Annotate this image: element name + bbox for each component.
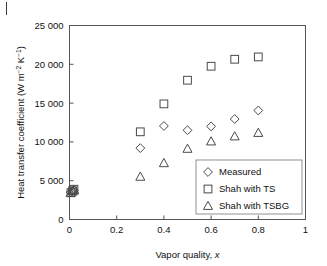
y-tick-label: 0 — [58, 214, 63, 225]
data-point-diamond — [136, 144, 145, 153]
data-point-diamond — [230, 115, 239, 124]
data-point-triangle — [136, 172, 145, 180]
data-point-triangle — [254, 128, 263, 136]
figure-container: 00.20.40.60.8105 00010 00015 00020 00025… — [0, 0, 327, 266]
axis-labels-layer: 00.20.40.60.8105 00010 00015 00020 00025… — [15, 20, 308, 260]
x-tick-label: 0.6 — [204, 224, 217, 235]
data-point-triangle — [207, 137, 216, 145]
x-tick-label: 0 — [67, 224, 72, 235]
legend-label: Shah with TS — [219, 183, 275, 194]
data-point-triangle — [183, 144, 192, 152]
data-point-diamond — [183, 126, 192, 135]
x-axis-title: Vapor quality, x — [155, 249, 220, 260]
data-point-square — [136, 128, 144, 136]
data-point-triangle — [230, 132, 239, 140]
scatter-chart: 00.20.40.60.8105 00010 00015 00020 00025… — [0, 0, 327, 266]
data-point-square — [184, 76, 192, 84]
x-tick-label: 0.4 — [157, 224, 170, 235]
y-tick-label: 5 000 — [40, 175, 64, 186]
data-point-square — [160, 100, 168, 108]
data-point-diamond — [207, 122, 216, 131]
data-point-triangle — [159, 158, 168, 166]
x-tick-label: 0.8 — [252, 224, 265, 235]
x-tick-label: 1 — [303, 224, 308, 235]
y-tick-label: 15 000 — [34, 98, 63, 109]
y-axis-title: Heat transfer coefficient (W m−2 K−1) — [15, 46, 26, 199]
y-tick-label: 10 000 — [34, 136, 63, 147]
data-point-square — [254, 53, 262, 61]
data-point-diamond — [160, 122, 169, 131]
data-point-square — [207, 62, 215, 70]
data-point-diamond — [254, 106, 263, 115]
legend-label: Measured — [219, 166, 261, 177]
chart-legend: MeasuredShah with TSShah with TSBG — [196, 160, 302, 214]
page-edge-mark — [6, 2, 7, 15]
legend-label: Shah with TSBG — [219, 200, 289, 211]
y-tick-label: 20 000 — [34, 59, 63, 70]
y-tick-label: 25 000 — [34, 20, 63, 31]
data-point-square — [231, 55, 239, 63]
x-tick-label: 0.2 — [110, 224, 123, 235]
